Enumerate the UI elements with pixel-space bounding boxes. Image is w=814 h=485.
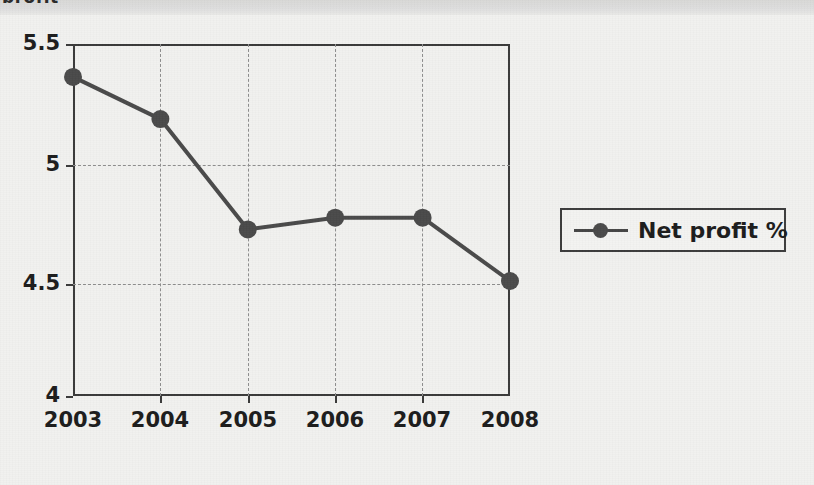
data-point-2003 [64, 68, 82, 86]
data-point-2005 [239, 220, 257, 238]
chart-legend: Net profit % [560, 208, 786, 252]
legend-marker-icon [574, 220, 628, 240]
data-point-2006 [326, 209, 344, 227]
scanned-chart-page: profit 5.5 5 4.5 4 2003 2004 2005 2006 2… [0, 0, 814, 485]
data-point-2004 [151, 110, 169, 128]
legend-label-net-profit: Net profit % [638, 218, 788, 243]
series-line-net-profit [73, 77, 510, 281]
data-point-2008 [501, 272, 519, 290]
data-point-2007 [414, 209, 432, 227]
series-markers-net-profit [64, 68, 519, 290]
